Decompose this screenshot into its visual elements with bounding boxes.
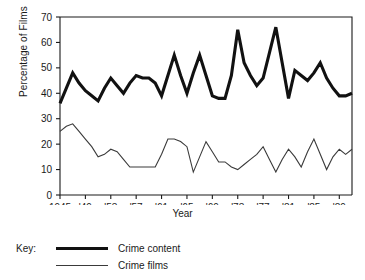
legend-entry: Crime films <box>56 257 180 274</box>
y-tick-label: 0 <box>46 190 52 201</box>
legend-line-swatch-icon <box>56 244 108 254</box>
series-line-crime-films <box>60 124 352 172</box>
y-axis-ticks: 010203040506070 <box>41 12 60 201</box>
legend-line-swatch-icon <box>56 261 108 271</box>
data-series-layer <box>60 27 352 172</box>
x-tick-label: '61 <box>155 202 168 205</box>
x-tick-label: '81 <box>282 202 295 205</box>
legend-entry-label: Crime content <box>118 243 180 254</box>
y-tick-label: 30 <box>41 113 53 124</box>
series-line-crime-content <box>60 27 352 103</box>
y-tick-label: 50 <box>41 62 53 73</box>
legend-title: Key: <box>16 243 36 254</box>
x-tick-label: '53 <box>104 202 117 205</box>
y-tick-label: 10 <box>41 164 53 175</box>
legend-entries: Crime contentCrime films <box>56 240 180 274</box>
x-tick-label: '85 <box>307 202 320 205</box>
y-tick-label: 20 <box>41 139 53 150</box>
legend-entry: Crime content <box>56 240 180 257</box>
legend-entry-label: Crime films <box>118 260 168 271</box>
chart-page: Percentage of Films 010203040506070 1945… <box>0 0 365 280</box>
line-chart-svg: 010203040506070 1945'49'53'57'61'65'69'7… <box>0 0 365 205</box>
x-tick-label: '57 <box>130 202 143 205</box>
y-tick-label: 40 <box>41 88 53 99</box>
x-axis-title: Year <box>0 208 365 219</box>
x-tick-label: '65 <box>180 202 193 205</box>
plot-area: 010203040506070 1945'49'53'57'61'65'69'7… <box>0 0 365 205</box>
x-axis-ticks: 1945'49'53'57'61'65'69'73'77'81'85'89 <box>49 195 346 205</box>
y-tick-label: 60 <box>41 37 53 48</box>
x-tick-label: '73 <box>231 202 244 205</box>
x-tick-label: 1945 <box>49 202 72 205</box>
y-tick-label: 70 <box>41 12 53 23</box>
x-tick-label: '49 <box>79 202 92 205</box>
axis-frame <box>60 17 352 195</box>
x-tick-label: '89 <box>333 202 346 205</box>
x-tick-label: '77 <box>257 202 270 205</box>
x-tick-label: '69 <box>206 202 219 205</box>
